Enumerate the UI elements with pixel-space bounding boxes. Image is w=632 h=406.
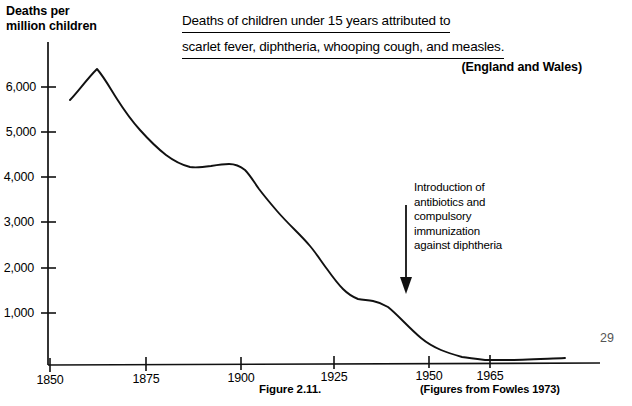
annotation-line2: antibiotics and [414, 195, 554, 210]
x-axis-line [48, 363, 600, 365]
y-tick-label-3000: 3,000 [0, 215, 34, 229]
y-tick-label-4000: 4,000 [0, 170, 34, 184]
figure-caption: Figure 2.11. [200, 383, 380, 395]
annotation-text: Introduction of antibiotics and compulso… [414, 180, 554, 253]
x-tick-label-1850: 1850 [20, 373, 80, 387]
annotation-arrow [400, 205, 412, 294]
y-tick-label-1000: 1,000 [0, 306, 34, 320]
x-tick-label-1875: 1875 [116, 372, 176, 386]
annotation-line1: Introduction of [414, 180, 554, 195]
y-tick-label-5000: 5,000 [0, 125, 36, 139]
x-tick-label-1965: 1965 [460, 369, 520, 383]
x-tick-label-1950: 1950 [399, 369, 459, 383]
figure-source: (Figures from Fowles 1973) [420, 383, 620, 395]
page-number: 29 [600, 331, 614, 345]
y-tick-label-2000: 2,000 [0, 261, 34, 275]
figure-container: Deaths per million children Deaths of ch… [0, 0, 632, 406]
annotation-line5: against diphtheria [414, 238, 554, 253]
annotation-line4: immunization [414, 224, 554, 239]
x-tick-label-1925: 1925 [304, 370, 364, 384]
annotation-line3: compulsory [414, 209, 554, 224]
y-tick-label-6000: 6,000 [0, 80, 36, 94]
